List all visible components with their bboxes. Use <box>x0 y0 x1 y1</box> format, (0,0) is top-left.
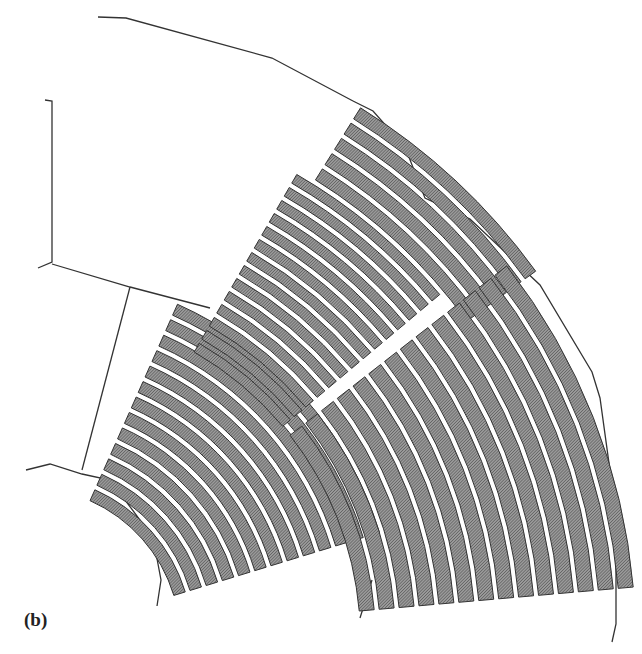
theatre-seating-plan <box>0 0 642 654</box>
lower-right-block <box>290 266 633 611</box>
left-wall <box>38 100 52 268</box>
seating-blocks <box>90 108 633 611</box>
upper-divider-wall <box>52 264 210 308</box>
top-wall <box>98 17 353 101</box>
figure-label: (b) <box>24 609 47 631</box>
inner-left-top-edge <box>82 287 130 470</box>
